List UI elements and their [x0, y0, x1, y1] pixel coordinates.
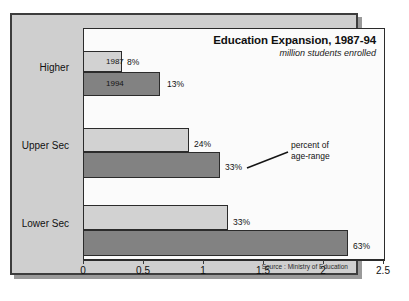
- category-label-higher: Higher: [12, 62, 69, 73]
- x-tick-2.5: [383, 260, 384, 264]
- chart-panel: Higher Upper Sec Lower Sec Education Exp…: [10, 13, 358, 275]
- x-tick-label-0.5: 0.5: [136, 265, 150, 276]
- annotation-line-2: age-range: [291, 151, 330, 161]
- source-note: Source : Ministry of Education: [262, 263, 348, 271]
- chart-figure: Higher Upper Sec Lower Sec Education Exp…: [0, 0, 409, 301]
- plot-area: Education Expansion, 1987-94 million stu…: [83, 28, 385, 260]
- x-tick-0.5: [143, 260, 144, 264]
- x-tick-label-1: 1: [200, 265, 206, 276]
- x-tick-label-0: 0: [80, 265, 86, 276]
- x-tick-0: [83, 260, 84, 264]
- x-tick-1: [203, 260, 204, 264]
- category-label-lower-sec: Lower Sec: [12, 218, 69, 229]
- x-axis-line: [83, 260, 385, 261]
- x-tick-label-2.5: 2.5: [376, 265, 390, 276]
- annotation-leader-line: [84, 29, 386, 261]
- annotation-line-1: percent of: [291, 140, 329, 150]
- category-label-upper-sec: Upper Sec: [12, 140, 69, 151]
